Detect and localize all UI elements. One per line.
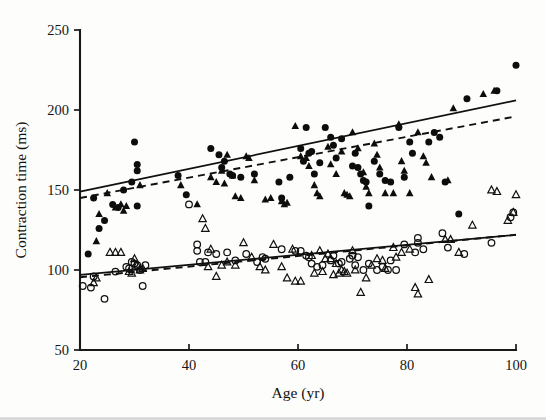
- point-filled-circle: [376, 171, 383, 178]
- point-filled-triangle: [390, 189, 398, 196]
- point-open-triangle: [297, 277, 304, 284]
- x-tick-label: 80: [400, 357, 415, 373]
- x-tick-label: 100: [505, 357, 527, 373]
- point-filled-circle: [463, 95, 470, 102]
- point-filled-triangle: [262, 196, 270, 203]
- point-filled-circle: [436, 134, 443, 141]
- point-filled-circle: [175, 172, 182, 179]
- y-axis-title: Contraction time (ms): [12, 122, 30, 259]
- point-filled-triangle: [401, 167, 409, 174]
- axis-labels: 5010015020025020406080100Age (yr)Contrac…: [12, 22, 527, 402]
- x-tick-label: 40: [182, 357, 197, 373]
- point-filled-circle: [330, 142, 337, 149]
- series-filled-triangle: [93, 87, 498, 244]
- point-open-circle: [101, 296, 108, 303]
- point-filled-triangle: [237, 194, 245, 201]
- point-filled-circle: [371, 158, 378, 165]
- point-filled-triangle: [420, 152, 428, 159]
- point-open-circle: [186, 201, 193, 208]
- point-filled-triangle: [332, 170, 340, 177]
- upper-solid-fit: [80, 100, 516, 191]
- point-filled-triangle: [95, 210, 103, 217]
- point-filled-triangle: [297, 152, 305, 159]
- point-filled-circle: [134, 167, 141, 174]
- point-open-circle: [360, 267, 367, 274]
- point-filled-triangle: [414, 128, 422, 135]
- point-filled-circle: [365, 203, 372, 210]
- point-open-circle: [243, 251, 250, 258]
- point-filled-circle: [183, 191, 190, 198]
- point-filled-triangle: [251, 176, 259, 183]
- point-filled-triangle: [349, 128, 357, 135]
- point-filled-circle: [134, 203, 141, 210]
- point-filled-triangle: [136, 181, 144, 188]
- point-filled-triangle: [428, 173, 436, 180]
- point-open-circle: [420, 246, 427, 253]
- point-filled-triangle: [381, 189, 389, 196]
- point-filled-circle: [134, 161, 141, 168]
- point-filled-triangle: [398, 157, 406, 164]
- point-open-triangle: [357, 288, 364, 295]
- point-open-triangle: [117, 248, 124, 255]
- point-filled-triangle: [267, 194, 275, 201]
- series-open-circle: [79, 201, 516, 302]
- point-filled-triangle: [117, 200, 125, 207]
- y-tick-label: 200: [47, 102, 69, 118]
- point-open-circle: [488, 240, 495, 247]
- figure-panel: 5010015020025020406080100Age (yr)Contrac…: [0, 0, 546, 420]
- point-open-circle: [194, 241, 201, 248]
- point-filled-circle: [406, 139, 413, 146]
- point-filled-circle: [207, 145, 214, 152]
- point-filled-circle: [221, 158, 228, 165]
- point-filled-circle: [85, 251, 92, 258]
- point-filled-triangle: [354, 144, 362, 151]
- point-open-circle: [278, 246, 285, 253]
- point-filled-circle: [297, 145, 304, 152]
- point-open-circle: [393, 267, 400, 274]
- point-filled-circle: [409, 150, 416, 157]
- point-filled-triangle: [232, 192, 240, 199]
- data-points: [79, 62, 519, 302]
- axes: [74, 30, 516, 350]
- point-filled-triangle: [93, 237, 101, 244]
- series-filled-circle: [85, 62, 520, 258]
- point-open-triangle: [425, 276, 432, 283]
- point-filled-circle: [101, 217, 108, 224]
- x-tick-label: 20: [73, 357, 88, 373]
- point-open-triangle: [270, 240, 277, 247]
- point-open-triangle: [202, 224, 209, 231]
- point-open-circle: [194, 248, 201, 255]
- point-filled-triangle: [207, 173, 215, 180]
- y-tick-label: 150: [47, 182, 69, 198]
- point-filled-triangle: [221, 180, 229, 187]
- point-filled-triangle: [373, 151, 381, 158]
- point-filled-circle: [128, 179, 135, 186]
- point-filled-circle: [431, 129, 438, 136]
- point-filled-triangle: [177, 181, 185, 188]
- point-filled-circle: [311, 171, 318, 178]
- point-open-triangle: [362, 274, 369, 281]
- point-filled-circle: [90, 195, 97, 202]
- point-filled-triangle: [406, 189, 414, 196]
- scatter-plot: 5010015020025020406080100Age (yr)Contrac…: [0, 0, 546, 420]
- point-filled-circle: [455, 211, 462, 218]
- point-open-triangle: [283, 274, 290, 281]
- point-open-triangle: [510, 208, 517, 215]
- point-open-triangle: [512, 191, 519, 198]
- point-open-triangle: [213, 272, 220, 279]
- point-filled-circle: [237, 174, 244, 181]
- point-filled-triangle: [193, 200, 201, 207]
- point-open-circle: [224, 249, 231, 256]
- point-filled-circle: [327, 134, 334, 141]
- y-tick-label: 250: [47, 22, 69, 38]
- y-tick-label: 50: [55, 342, 70, 358]
- point-filled-circle: [275, 179, 282, 186]
- point-filled-triangle: [365, 189, 373, 196]
- point-filled-circle: [354, 164, 361, 171]
- point-open-triangle: [240, 239, 247, 246]
- point-open-circle: [445, 244, 452, 251]
- y-tick-label: 100: [47, 262, 69, 278]
- point-filled-circle: [513, 62, 520, 69]
- point-filled-circle: [131, 139, 138, 146]
- point-filled-circle: [286, 174, 293, 181]
